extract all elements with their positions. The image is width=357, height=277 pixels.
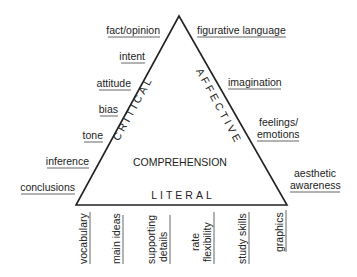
- literal-item: graphics: [273, 212, 285, 252]
- critical-item: inference: [46, 155, 89, 167]
- critical-items: fact/opinion intent attitude bias tone i…: [20, 24, 160, 194]
- affective-item: imagination: [228, 76, 282, 88]
- critical-item: attitude: [97, 77, 132, 89]
- center-label: COMPREHENSION: [133, 156, 227, 168]
- affective-item: feelings/: [259, 116, 298, 128]
- literal-items: vocabulary main ideas supporting details…: [77, 210, 286, 264]
- literal-item: main ideas: [110, 213, 122, 264]
- critical-item: conclusions: [20, 181, 75, 193]
- affective-item: awareness: [290, 179, 341, 191]
- affective-item: aesthetic: [294, 167, 336, 179]
- literal-item: flexibility: [201, 222, 213, 262]
- literal-item: study skills: [236, 213, 248, 264]
- affective-item: figurative language: [197, 24, 286, 36]
- critical-item: intent: [119, 50, 145, 62]
- literal-item: details: [157, 232, 169, 262]
- critical-item: fact/opinion: [106, 24, 160, 36]
- affective-item: emotions: [257, 128, 300, 140]
- critical-item: tone: [83, 129, 104, 141]
- comprehension-triangle-diagram: COMPREHENSION LITERAL CRITICAL AFFECTIVE…: [0, 0, 357, 277]
- critical-item: bias: [99, 103, 118, 115]
- side-label-literal: LITERAL: [151, 189, 215, 201]
- literal-item: rate: [189, 233, 201, 251]
- literal-item: supporting: [145, 215, 157, 264]
- literal-item: vocabulary: [77, 212, 89, 264]
